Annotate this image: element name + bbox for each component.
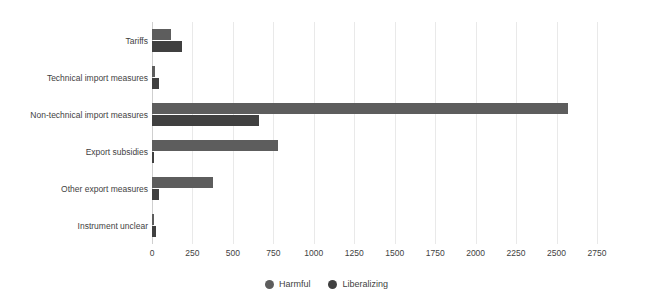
bar-harmful-4 xyxy=(152,177,213,188)
plot-area xyxy=(152,22,597,244)
y-axis-label-3: Export subsidies xyxy=(2,147,148,157)
x-axis-tick-2750: 2750 xyxy=(588,248,607,258)
y-axis-label-0: Tariffs xyxy=(2,36,148,46)
y-axis-labels: TariffsTechnical import measuresNon-tech… xyxy=(0,22,148,244)
bar-harmful-5 xyxy=(152,214,154,225)
y-axis-label-5: Instrument unclear xyxy=(2,221,148,231)
bar-chart: TariffsTechnical import measuresNon-tech… xyxy=(0,0,653,307)
legend-item-liberalizing[interactable]: Liberalizing xyxy=(328,279,388,289)
x-axis-tick-1250: 1250 xyxy=(345,248,364,258)
bar-harmful-1 xyxy=(152,66,155,77)
chart-legend: HarmfulLiberalizing xyxy=(0,279,653,289)
x-axis-tick-2500: 2500 xyxy=(547,248,566,258)
x-axis-tick-0: 0 xyxy=(150,248,155,258)
circle-marker-icon xyxy=(265,280,274,289)
bar-group xyxy=(152,22,597,59)
x-axis-ticks: 0250500750100012501500175020002250250027… xyxy=(152,248,597,262)
bar-harmful-3 xyxy=(152,140,278,151)
x-axis-tick-2000: 2000 xyxy=(466,248,485,258)
gridline-2750 xyxy=(597,22,598,244)
x-axis-tick-2250: 2250 xyxy=(507,248,526,258)
x-axis-tick-1500: 1500 xyxy=(385,248,404,258)
bar-harmful-2 xyxy=(152,103,568,114)
x-axis-tick-1750: 1750 xyxy=(426,248,445,258)
bar-liberalizing-4 xyxy=(152,189,159,200)
y-axis-label-1: Technical import measures xyxy=(2,73,148,83)
bar-group xyxy=(152,170,597,207)
y-axis-label-2: Non-technical import measures xyxy=(2,110,148,120)
circle-marker-icon xyxy=(328,280,337,289)
bar-liberalizing-2 xyxy=(152,115,259,126)
y-axis-label-4: Other export measures xyxy=(2,184,148,194)
legend-label-liberalizing: Liberalizing xyxy=(342,279,388,289)
bar-group xyxy=(152,133,597,170)
bar-group xyxy=(152,96,597,133)
x-axis-tick-250: 250 xyxy=(185,248,199,258)
bar-group xyxy=(152,59,597,96)
legend-label-harmful: Harmful xyxy=(279,279,311,289)
bar-liberalizing-0 xyxy=(152,41,182,52)
bar-liberalizing-1 xyxy=(152,78,159,89)
x-axis-tick-500: 500 xyxy=(226,248,240,258)
x-axis-tick-1000: 1000 xyxy=(304,248,323,258)
legend-item-harmful[interactable]: Harmful xyxy=(265,279,311,289)
x-axis-tick-750: 750 xyxy=(266,248,280,258)
bar-group xyxy=(152,207,597,244)
bar-liberalizing-3 xyxy=(152,152,154,163)
bar-harmful-0 xyxy=(152,29,171,40)
bar-liberalizing-5 xyxy=(152,226,156,237)
